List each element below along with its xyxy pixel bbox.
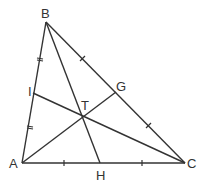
label-h: H [96, 168, 105, 183]
triangle-diagram: B A C G I H T [0, 0, 206, 186]
label-t: T [81, 98, 89, 113]
label-c: C [187, 156, 196, 171]
label-i: I [28, 84, 32, 99]
side-ab [22, 22, 46, 163]
median-ci [33, 93, 185, 163]
label-g: G [116, 79, 126, 94]
median-bh [46, 22, 100, 163]
label-b: B [41, 6, 50, 21]
median-ag [22, 92, 116, 163]
tick-marks [27, 56, 151, 166]
label-a: A [9, 156, 18, 171]
